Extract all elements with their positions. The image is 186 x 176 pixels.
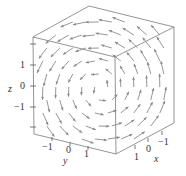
z-tick-0: 0 [20, 80, 25, 91]
y-tick-0: 0 [66, 144, 71, 155]
arrow-head-icon [91, 73, 94, 76]
z-tick-1: 1 [20, 59, 25, 70]
y-axis-label: y [62, 155, 68, 166]
vector-field-plot: 1 0 −1 z −1 0 1 y 1 0 −1 x [0, 0, 186, 176]
z-axis: 1 0 −1 z [7, 44, 36, 127]
x-tick-neg1: −1 [158, 136, 169, 147]
arrow-head-icon [70, 37, 73, 40]
arrow-head-icon [134, 64, 137, 67]
arrow-head-icon [88, 47, 91, 50]
arrow-head-icon [93, 127, 96, 130]
x-tick-1: 1 [134, 151, 139, 162]
arrow-head-icon [67, 94, 70, 97]
arrow-head-icon [145, 75, 148, 78]
arrow-head-icon [106, 125, 109, 128]
arrow-head-icon [139, 90, 142, 93]
arrow-head-icon [56, 81, 59, 84]
y-tick-1: 1 [84, 148, 89, 159]
arrow-head-icon [119, 79, 122, 82]
arrow-head-icon [86, 21, 89, 24]
arrow-head-icon [86, 61, 89, 64]
arrow-head-icon [41, 97, 44, 100]
bounding-box [33, 6, 174, 154]
y-tick-neg1: −1 [42, 141, 53, 152]
arrow-head-icon [119, 122, 122, 125]
z-axis-label: z [7, 83, 12, 94]
arrow-head-icon [158, 74, 161, 77]
x-axis-label: x [153, 153, 159, 164]
arrow-head-icon [75, 49, 78, 52]
arrow-head-icon [90, 141, 93, 144]
arrow-head-icon [112, 17, 115, 20]
vector-arrows [37, 17, 167, 143]
arrow-head-icon [54, 95, 57, 98]
arrow-head-icon [80, 92, 83, 95]
x-tick-0: 0 [146, 143, 151, 154]
arrow-head-icon [93, 90, 96, 93]
arrow-head-icon [113, 110, 116, 113]
z-tick-neg1: −1 [14, 101, 25, 112]
arrow-head-icon [132, 77, 135, 80]
